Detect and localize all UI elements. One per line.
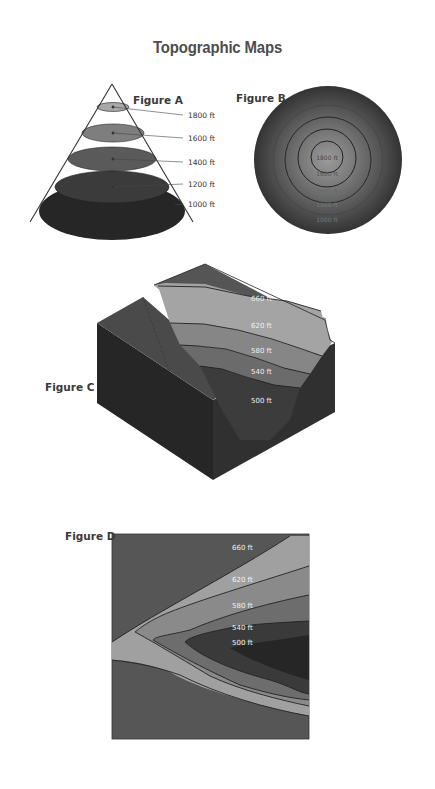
contour-label: 580 ft [232, 602, 253, 610]
contour-label: 1200 ft [188, 180, 215, 189]
contour-label: 580 ft [251, 347, 272, 355]
contour-label: 620 ft [251, 322, 272, 330]
contour-label: 1600 ft [188, 134, 215, 143]
contour-label: 1800 ft [316, 154, 338, 161]
contour-label: 500 ft [251, 397, 272, 405]
contour-label: 1600 ft [316, 170, 338, 177]
contour-label: 660 ft [251, 295, 272, 303]
contour-label: 1000 ft [316, 216, 338, 223]
figure-a-cone: 1800 ft 1600 ft 1400 ft 1200 ft 1000 ft … [0, 0, 435, 789]
figure-c-label: Figure C [45, 381, 94, 393]
contour-label: 540 ft [251, 368, 272, 376]
contour-label: 540 ft [232, 624, 253, 632]
figure-d-label: Figure D [65, 530, 115, 542]
contour-label: 1000 ft [188, 200, 215, 209]
figure-d-contour-map: 660 ft 620 ft 580 ft 540 ft 500 ft [112, 534, 309, 739]
figure-c-block-diagram: 660 ft 620 ft 580 ft 540 ft 500 ft [97, 264, 335, 480]
figure-b-label: Figure B [236, 92, 286, 104]
contour-label: 1400 ft [188, 158, 215, 167]
contour-label: 1200 ft [316, 201, 338, 208]
contour-label: 1800 ft [188, 111, 215, 120]
contour-label: 1400 ft [316, 187, 338, 194]
contour-label: 660 ft [232, 544, 253, 552]
figure-b-contour-map: 1800 ft 1600 ft 1400 ft 1200 ft 1000 ft [254, 86, 402, 234]
contour-label: 620 ft [232, 576, 253, 584]
contour-label: 500 ft [232, 639, 253, 647]
